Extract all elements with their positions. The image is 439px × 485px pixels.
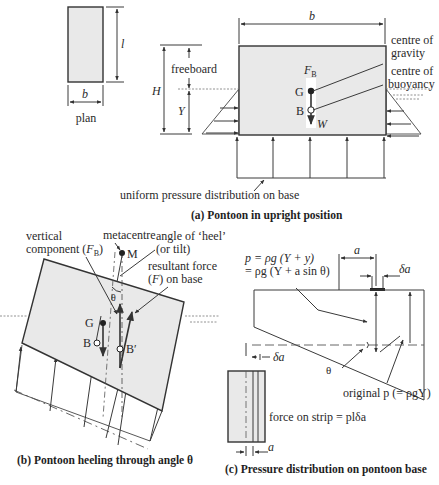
figure-b: θ M G B B′ metacentre vertical component… [0,228,226,467]
metacentre-label: metacentre [103,228,156,242]
elevation-width-label: b [309,9,315,23]
resultant-force-label-1: resultant force [148,259,217,273]
left-pressure-triangle [202,89,239,134]
label-g-heeled: G [85,316,94,330]
plan-width-label: b [82,87,88,101]
label-b-heeled: B [83,336,91,350]
label-w: W [317,117,328,131]
metacentre-point [119,250,125,256]
pressure-formula-2: = ρg (Y + a sin θ) [245,264,330,278]
theta-label-b: θ [111,292,116,303]
vertical-component-label-2: component (FB) [26,242,103,258]
heel-angle-label-2: (or tilt) [156,242,190,256]
pressure-formula-1: p = ρg (Y + y) [244,251,314,265]
label-g: G [295,85,304,99]
freeboard-label: freeboard [171,62,217,76]
plan-label: plan [76,111,97,125]
plan-length-label: l [121,37,125,51]
caption-c: (c) Pressure distribution on pontoon bas… [225,463,427,476]
original-pressure-label: original p (= ρgY) [343,386,431,400]
label-b-prime: B′ [126,342,137,356]
resultant-force-label-2: (F) on base [148,272,203,286]
caption-b: (b) Pontoon heeling through angle θ [17,454,193,467]
strip-plan-rectangle [228,371,265,442]
pontoon-stability-diagram: l b plan b [0,0,439,485]
centre-of-gravity-label-2: gravity [391,46,425,60]
dim-delta-a-left-label: δa [273,350,285,364]
dim-a-label: a [354,243,360,257]
vertical-component-label-1: vertical [26,229,63,243]
centre-of-buoyancy-label-2: buoyancy [388,77,435,91]
dim-a-bottom-label: a [268,440,274,454]
force-on-strip-label: force on strip = plδa [269,410,367,424]
centre-of-buoyancy-label-1: centre of [391,64,433,78]
figure-a: l b plan b [68,7,435,222]
caption-a: (a) Pontoon in upright position [191,209,343,222]
elevation-view: b H freeboard Y [120,9,435,202]
height-label: H [151,84,162,98]
g-point-heeled [100,320,106,326]
centre-of-gravity-label-1: centre of [391,33,433,47]
b-point-heeled [94,340,100,346]
plan-view: l b plan [68,7,125,125]
b-prime-point [117,346,123,352]
heel-angle-label-1: angle of ‘heel’ [156,229,226,243]
figure-c: p = ρg (Y + y) = ρg (Y + a sin θ) a δa δ [225,243,431,476]
label-m: M [127,247,138,261]
dim-delta-a-label: δa [399,262,411,276]
draft-label: Y [178,104,186,118]
label-b: B [296,104,304,118]
plan-rectangle [68,7,103,82]
uniform-pressure-label: uniform pressure distribution on base [120,188,299,202]
theta-label-c: θ [326,364,331,376]
